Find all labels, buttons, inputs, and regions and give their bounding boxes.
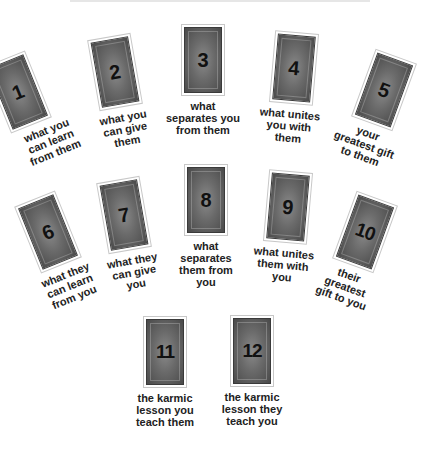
card-back: 1 — [0, 50, 52, 133]
top-rule — [70, 0, 370, 2]
card-caption: the karmic lesson they teach you — [202, 391, 302, 427]
card-number: 8 — [200, 189, 211, 212]
card-back: 10 — [332, 191, 398, 274]
card-number: 9 — [281, 195, 294, 219]
card-number: 4 — [287, 56, 300, 80]
card-number: 1 — [9, 79, 28, 104]
card-number: 11 — [156, 341, 174, 363]
card-back: 3 — [181, 24, 225, 96]
card-caption: the karmic lesson you teach them — [115, 392, 215, 428]
card-number: 7 — [117, 203, 132, 228]
card-number: 6 — [39, 219, 58, 244]
card-back: 2 — [87, 33, 143, 112]
card-back: 11 — [143, 316, 187, 388]
card-number: 5 — [375, 77, 393, 102]
card-number: 12 — [242, 340, 261, 362]
card-back: 5 — [351, 49, 417, 132]
card-number: 10 — [352, 218, 378, 245]
card-number: 3 — [197, 49, 208, 72]
card-back: 7 — [96, 176, 152, 255]
card-back: 12 — [230, 315, 274, 387]
card-back: 9 — [263, 169, 313, 245]
card-back: 6 — [14, 190, 82, 273]
card-back: 8 — [184, 164, 228, 236]
card-back: 4 — [269, 30, 319, 106]
card-number: 2 — [108, 60, 123, 85]
